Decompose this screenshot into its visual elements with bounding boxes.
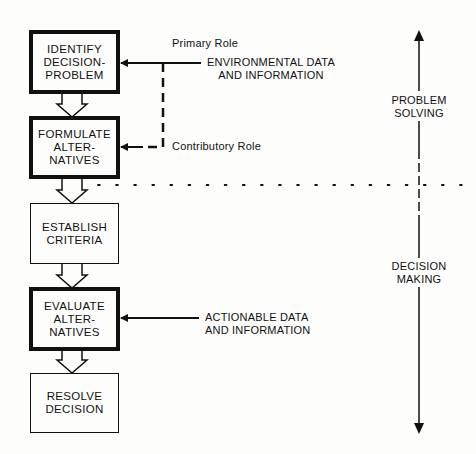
flow-arrow-4-5 [57,350,87,373]
decision-process-diagram: IDENTIFY DECISION- PROBLEM FORMULATE ALT… [0,0,476,454]
flow-arrow-1-2 [57,93,87,117]
environmental-data-label: ENVIRONMENTAL DATA AND INFORMATION [201,56,341,82]
step-establish-criteria: ESTABLISH CRITERIA [30,203,119,264]
primary-role-label: Primary Role [172,37,238,50]
step-resolve-decision: RESOLVE DECISION [30,373,119,433]
arrow-down-icon [414,423,424,434]
step-label: ESTABLISH CRITERIA [42,221,107,247]
flow-arrow-3-4 [57,264,87,288]
step-formulate-alternatives: FORMULATE ALTER- NATIVES [29,116,120,179]
step-label: RESOLVE DECISION [46,390,104,416]
actionable-data-label: ACTIONABLE DATA AND INFORMATION [205,311,310,337]
contributory-role-label: Contributory Role [172,140,261,153]
step-label: IDENTIFY DECISION- PROBLEM [43,43,105,82]
phase-problem-solving-label: PROBLEM SOLVING [384,94,454,120]
step-evaluate-alternatives: EVALUATE ALTER- NATIVES [29,287,120,351]
contributory-role-connector [146,63,163,147]
arrow-up-icon [414,30,424,41]
flow-arrow-2-3 [57,178,87,203]
step-label: EVALUATE ALTER- NATIVES [44,300,105,339]
step-label: FORMULATE ALTER- NATIVES [38,128,111,167]
phase-decision-making-label: DECISION MAKING [384,260,454,286]
step-identify-decision-problem: IDENTIFY DECISION- PROBLEM [29,30,120,94]
